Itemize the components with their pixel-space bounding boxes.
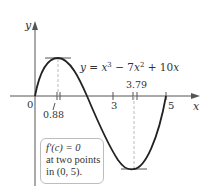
tick-label-3: 3: [111, 100, 117, 111]
label-3.79: 3.79: [126, 79, 147, 90]
function-graph: y x 0 3 5 0.88 3.79 y = x3 − 7x2 + 10x: [0, 0, 210, 192]
callout-box: f′(c) = 0 at two points in (0, 5).: [40, 138, 104, 184]
y-axis-label: y: [24, 19, 32, 32]
callout-line-3: in (0, 5).: [46, 166, 103, 178]
callout-line-2: at two points: [46, 154, 103, 166]
y-axis-arrow-icon: [32, 21, 38, 30]
origin-label: 0: [27, 99, 33, 110]
x-axis-label: x: [193, 100, 200, 113]
x-axis-arrow-icon: [191, 93, 200, 99]
function-label: y = x3 − 7x2 + 10x: [79, 61, 179, 73]
callout-line-1: f′(c) = 0: [46, 142, 103, 154]
tick-label-5: 5: [168, 100, 174, 111]
label-0.88: 0.88: [43, 109, 64, 120]
